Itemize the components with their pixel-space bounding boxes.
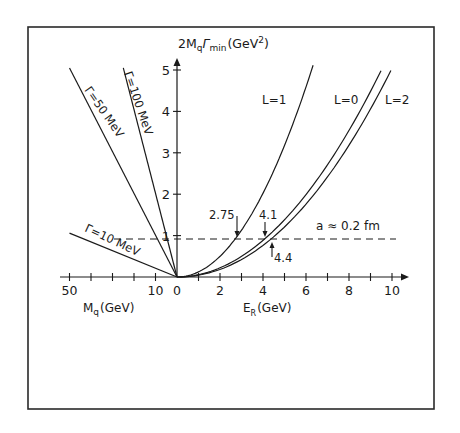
y-tick-label: 5 <box>162 63 170 78</box>
series-label-l0: L=0 <box>334 93 358 107</box>
svg-text:4.4: 4.4 <box>274 251 292 265</box>
y-tick-label: 4 <box>162 104 170 119</box>
y-tick-label: 1 <box>162 229 170 244</box>
x-tick-label: 2 <box>216 283 224 298</box>
x-tick-label: 10 <box>384 283 400 298</box>
x-axis-arrow-icon <box>401 274 409 281</box>
x-tick-label: 0 <box>173 283 181 298</box>
reference-line-label: a ≈ 0.2 fm <box>316 219 380 233</box>
x-tick-label: 8 <box>345 283 353 298</box>
x-tick-label-left: 50 <box>62 283 78 298</box>
series-label-l2: L=2 <box>385 93 409 107</box>
x-axis-left-label: Mq(GeV) <box>83 301 134 317</box>
series-label-l1: L=1 <box>262 93 286 107</box>
svg-text:2.75: 2.75 <box>209 208 235 222</box>
x-axis-right-label: ER(GeV) <box>243 301 291 318</box>
annotation-2-75: 2.75 <box>209 208 240 237</box>
annotation-4-1: 4.1 <box>259 208 277 237</box>
series-label-gamma-10: Γ=10 MeV <box>83 221 143 259</box>
y-tick-label: 3 <box>162 146 170 161</box>
series-line-l-1 <box>177 65 313 277</box>
chart-figure: 1234502468105010 2MqΓmin(GeV2) Mq(GeV) E… <box>0 0 460 433</box>
series-label-gamma-50: Γ=50 MeV <box>82 84 127 141</box>
arrow-down-icon <box>263 231 268 237</box>
y-axis-arrow-icon <box>174 58 181 66</box>
x-tick-label: 4 <box>259 283 267 298</box>
svg-text:4.1: 4.1 <box>259 208 277 222</box>
y-axis-label: 2MqΓmin(GeV2) <box>178 35 269 53</box>
annotation-4-4: 4.4 <box>270 242 293 265</box>
y-tick-label: 2 <box>162 187 170 202</box>
x-tick-label: 6 <box>302 283 310 298</box>
x-tick-label-left: 10 <box>148 283 164 298</box>
arrow-up-icon <box>270 242 275 248</box>
